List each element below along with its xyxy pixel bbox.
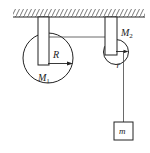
arrowhead-icon	[124, 50, 129, 53]
label-R: R	[52, 49, 59, 60]
label-M2: M2	[120, 27, 133, 40]
ceiling	[13, 9, 145, 17]
large-pulley-bracket	[38, 17, 49, 65]
pulley-diagram: R M1 M2 r m	[0, 0, 150, 153]
label-r: r	[117, 60, 121, 70]
large-pulley	[23, 17, 73, 83]
label-m: m	[119, 126, 126, 136]
small-pulley-bracket	[105, 17, 117, 55]
small-pulley	[104, 17, 129, 65]
